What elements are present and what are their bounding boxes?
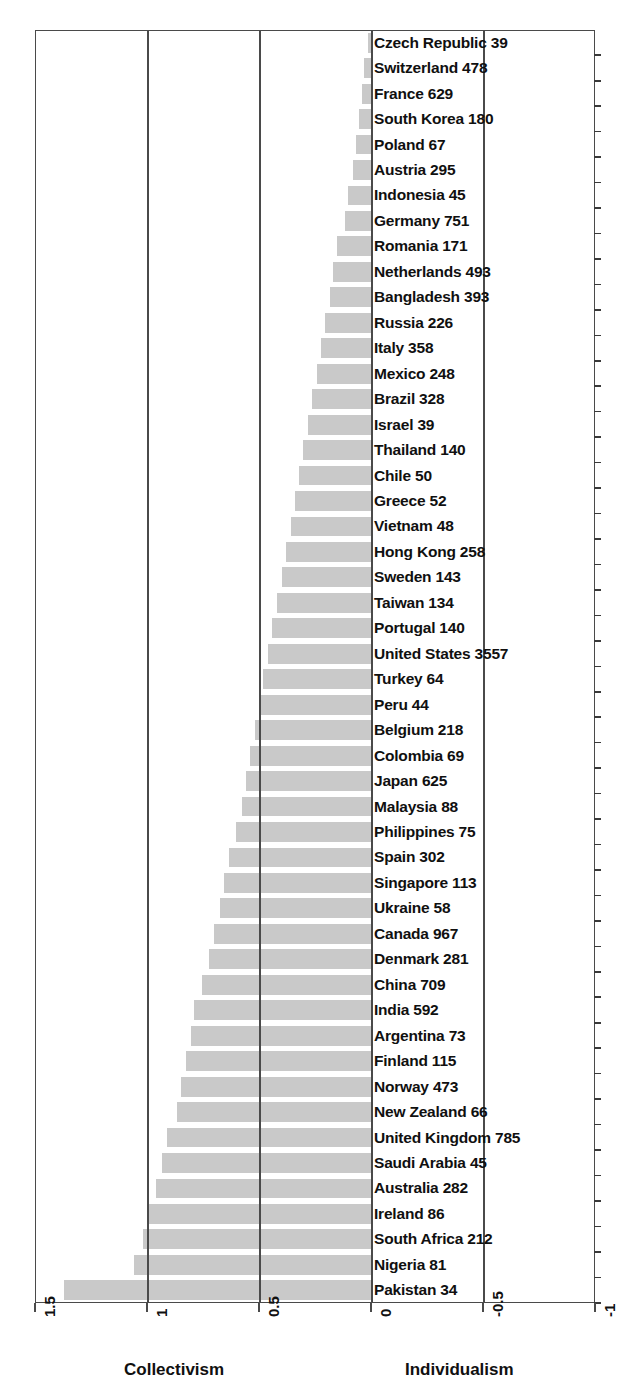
x-axis-tick (594, 1303, 595, 1312)
bar-label: New Zealand 66 (374, 1104, 488, 1120)
row-tick (594, 284, 601, 286)
x-axis-tick (482, 1303, 483, 1312)
bar-label: Italy 358 (374, 340, 433, 356)
bar-label: Canada 967 (374, 926, 458, 942)
bar-label: Portugal 140 (374, 620, 465, 636)
bar-label: Australia 282 (374, 1180, 468, 1196)
axis-title-collectivism: Collectivism (124, 1360, 224, 1380)
bar-label: Russia 226 (374, 315, 453, 331)
row-tick (594, 1149, 601, 1151)
row-tick (594, 920, 601, 922)
row-tick (594, 1022, 601, 1024)
bar-label: Brazil 328 (374, 391, 444, 407)
row-tick (594, 538, 601, 540)
bar-label: Vietnam 48 (374, 518, 454, 534)
row-tick (594, 589, 601, 591)
collectivism-individualism-bar-chart: Czech Republic 39Switzerland 478France 6… (0, 0, 627, 1398)
row-tick (594, 1200, 601, 1202)
row-tick (594, 1175, 601, 1177)
row-tick (594, 182, 601, 184)
bar-label: South Korea 180 (374, 111, 493, 127)
row-tick (594, 156, 601, 158)
bar-label: Spain 302 (374, 849, 445, 865)
bar-label: Mexico 248 (374, 366, 455, 382)
bar-label: Romania 171 (374, 238, 467, 254)
bar-label: Thailand 140 (374, 442, 466, 458)
bar-label: Taiwan 134 (374, 595, 454, 611)
bar-label: Germany 751 (374, 213, 469, 229)
x-axis-tick-label: 1.5 (41, 1296, 58, 1317)
x-axis-tick (370, 1303, 371, 1312)
row-tick (594, 513, 601, 515)
bar-label: Singapore 113 (374, 875, 477, 891)
bar-labels-layer: Czech Republic 39Switzerland 478France 6… (0, 30, 627, 1303)
row-tick (594, 54, 601, 56)
bar-label: Switzerland 478 (374, 60, 487, 76)
bar-label: Netherlands 493 (374, 264, 491, 280)
row-tick (594, 971, 601, 973)
bar-label: Philippines 75 (374, 824, 475, 840)
row-tick (594, 844, 601, 846)
row-tick (594, 411, 601, 413)
row-tick (594, 742, 601, 744)
bar-label: Greece 52 (374, 493, 446, 509)
row-tick (594, 1098, 601, 1100)
row-tick (594, 1226, 601, 1228)
bar-label: Austria 295 (374, 162, 455, 178)
bar-label: Malaysia 88 (374, 799, 458, 815)
row-tick (594, 233, 601, 235)
bar-label: Sweden 143 (374, 569, 461, 585)
bar-label: Hong Kong 258 (374, 544, 485, 560)
row-tick (594, 335, 601, 337)
x-axis-tick-label: -1 (601, 1304, 618, 1317)
bar-label: Nigeria 81 (374, 1257, 446, 1273)
row-tick (594, 946, 601, 948)
row-tick (594, 436, 601, 438)
bar-label: Ukraine 58 (374, 900, 450, 916)
row-tick (594, 1047, 601, 1049)
bar-label: Indonesia 45 (374, 187, 466, 203)
x-axis-tick (34, 1303, 35, 1312)
row-tick (594, 640, 601, 642)
row-tick (594, 309, 601, 311)
row-tick (594, 1073, 601, 1075)
row-tick (594, 564, 601, 566)
row-tick (594, 360, 601, 362)
row-tick (594, 80, 601, 82)
row-tick (594, 666, 601, 668)
x-axis-tick-label: 0.5 (265, 1296, 282, 1317)
row-tick (594, 691, 601, 693)
bar-label: United Kingdom 785 (374, 1130, 520, 1146)
bar-label: India 592 (374, 1002, 439, 1018)
row-tick (594, 869, 601, 871)
bar-label: Saudi Arabia 45 (374, 1155, 487, 1171)
row-tick (594, 818, 601, 820)
row-tick (594, 615, 601, 617)
bar-label: Peru 44 (374, 697, 429, 713)
row-tick (594, 462, 601, 464)
row-tick (594, 207, 601, 209)
bar-label: Poland 67 (374, 137, 445, 153)
row-tick (594, 1124, 601, 1126)
row-tick (594, 131, 601, 133)
bar-label: Norway 473 (374, 1079, 458, 1095)
x-axis-tick-label: -0.5 (489, 1291, 506, 1317)
bar-label: Ireland 86 (374, 1206, 444, 1222)
bar-label: Czech Republic 39 (374, 35, 508, 51)
bar-label: Chile 50 (374, 468, 432, 484)
axis-title-individualism: Individualism (405, 1360, 514, 1380)
row-tick (594, 895, 601, 897)
bar-label: France 629 (374, 86, 453, 102)
row-tick (594, 1251, 601, 1253)
bar-label: Colombia 69 (374, 748, 464, 764)
row-tick (594, 716, 601, 718)
x-axis-tick (258, 1303, 259, 1312)
bar-label: South Africa 212 (374, 1231, 493, 1247)
bar-label: Argentina 73 (374, 1028, 466, 1044)
bar-label: Japan 625 (374, 773, 447, 789)
bar-label: Bangladesh 393 (374, 289, 489, 305)
x-axis-tick (146, 1303, 147, 1312)
row-tick (594, 385, 601, 387)
bar-label: Finland 115 (374, 1053, 456, 1069)
row-tick (594, 105, 601, 107)
